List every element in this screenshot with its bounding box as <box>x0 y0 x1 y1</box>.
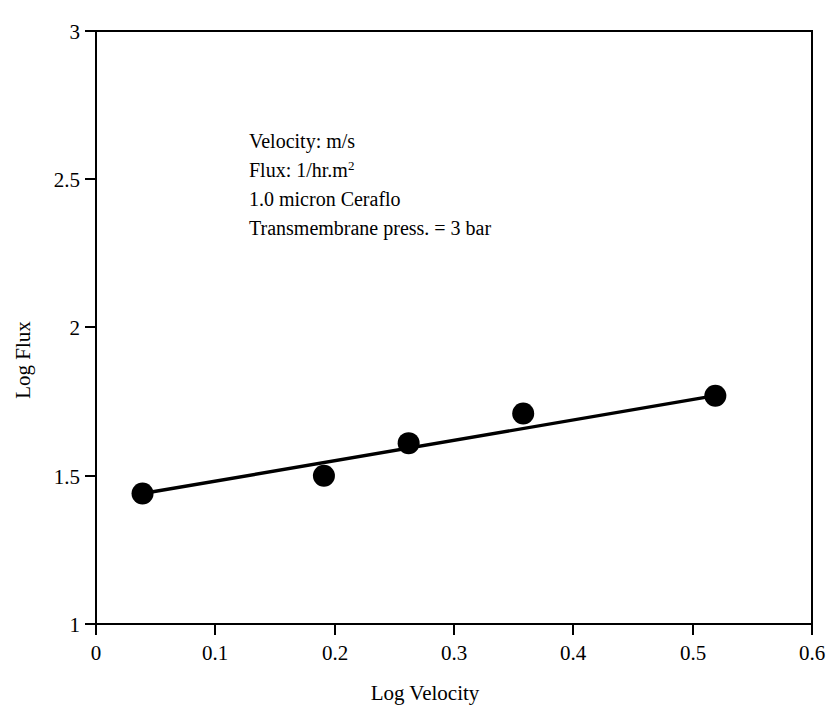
annotation-flux-units-main: Flux: 1/hr.m <box>249 159 348 181</box>
x-tick-label-0-5: 0.5 <box>680 641 706 665</box>
trend-line <box>143 396 716 494</box>
y-axis-tick-labels: 3 2.5 2 1.5 1 <box>54 20 80 637</box>
y-axis-title: Log Flux <box>11 321 35 399</box>
x-tick-label-0-3: 0.3 <box>441 641 467 665</box>
x-axis-tick-labels: 0 0.1 0.2 0.3 0.4 0.5 0.6 <box>91 641 825 665</box>
scatter-plot-canvas: 3 2.5 2 1.5 1 0 0.1 0.2 0.3 0.4 0.5 0.6 <box>0 0 839 714</box>
x-tick-label-0: 0 <box>91 641 102 665</box>
x-axis-title: Log Velocity <box>371 681 480 705</box>
annotation-velocity-units: Velocity: m/s <box>249 130 355 153</box>
annotation-membrane-type: 1.0 micron Ceraflo <box>249 188 401 210</box>
y-tick-label-2-5: 2.5 <box>54 168 80 192</box>
y-tick-label-2: 2 <box>70 316 81 340</box>
data-point <box>313 465 335 487</box>
chart-figure: 3 2.5 2 1.5 1 0 0.1 0.2 0.3 0.4 0.5 0.6 <box>0 0 839 714</box>
x-tick-label-0-4: 0.4 <box>560 641 587 665</box>
plot-frame <box>96 31 812 624</box>
y-tick-label-3: 3 <box>70 20 81 44</box>
x-tick-label-0-2: 0.2 <box>322 641 348 665</box>
x-tick-label-0-6: 0.6 <box>799 641 825 665</box>
y-tick-label-1: 1 <box>70 613 81 637</box>
data-point <box>704 385 726 407</box>
y-tick-label-1-5: 1.5 <box>54 465 80 489</box>
y-axis-ticks <box>85 31 96 624</box>
data-point <box>132 483 154 505</box>
annotation-flux-units-exponent: 2 <box>348 158 355 173</box>
x-axis-ticks <box>96 624 812 635</box>
annotation-transmembrane-pressure: Transmembrane press. = 3 bar <box>249 217 491 240</box>
annotation-flux-units: Flux: 1/hr.m2 <box>249 158 354 181</box>
data-point <box>398 432 420 454</box>
data-point <box>512 402 534 424</box>
annotation-block: Velocity: m/s Flux: 1/hr.m2 1.0 micron C… <box>249 130 491 240</box>
x-tick-label-0-1: 0.1 <box>202 641 228 665</box>
